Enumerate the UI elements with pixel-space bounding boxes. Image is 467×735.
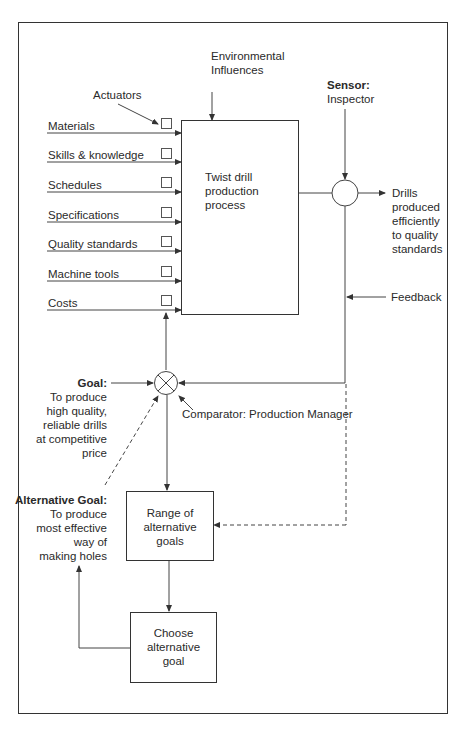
alt-goal-text-2: most effective [36,521,107,536]
output-line-5: standards [392,242,443,257]
alt-goal-text-4: making holes [39,549,107,564]
actuator-box-materials [161,118,172,129]
output-line-1: Drills [392,186,418,201]
actuators-label: Actuators [93,88,142,103]
actuator-box-costs [161,295,172,306]
goal-text-4: at competitive [36,432,107,447]
input-label-quality-standards: Quality standards [48,237,138,252]
output-line-3: efficiently [392,214,440,229]
alt-goal-text-1: To produce [50,507,107,522]
goal-title: Goal: [78,376,107,391]
range-label-2: alternative [127,520,213,535]
connector-lines [0,0,467,735]
input-label-materials: Materials [48,119,95,134]
sensor-title: Sensor: [327,78,370,93]
alt-goal-text-3: way of [74,535,107,550]
output-line-4: to quality [392,228,438,243]
process-label-2: production [205,184,259,199]
input-label-schedules: Schedules [48,178,102,193]
input-label-specifications: Specifications [48,208,119,223]
goal-text-5: price [82,446,107,461]
output-line-2: produced [392,200,440,215]
range-label-1: Range of [127,506,213,521]
actuator-box-skills [161,148,172,159]
feedback-label: Feedback [391,290,442,305]
choose-label-3: goal [131,654,216,669]
comparator-label: Comparator: Production Manager [182,407,353,422]
process-box: Twist drill production process [181,120,299,315]
goal-text-2: high quality, [46,404,107,419]
actuator-box-specifications [161,207,172,218]
actuator-box-schedules [161,177,172,188]
environmental-label-line1: Environmental [211,49,285,64]
goal-text-1: To produce [50,390,107,405]
alt-goal-title: Alternative Goal: [15,493,107,508]
process-label-1: Twist drill [205,170,252,185]
range-of-goals-box: Range of alternative goals [126,491,214,561]
actuator-box-quality [161,236,172,247]
process-label-3: process [205,198,245,213]
input-label-skills: Skills & knowledge [48,148,144,163]
goal-text-3: reliable drills [43,418,107,433]
sensor-name: Inspector [327,92,374,107]
choose-goal-box: Choose alternative goal [130,612,217,683]
actuator-box-machine-tools [161,266,172,277]
environmental-label-line2: Influences [211,63,263,78]
input-label-costs: Costs [48,296,77,311]
range-label-3: goals [127,534,213,549]
input-label-machine-tools: Machine tools [48,267,119,282]
choose-label-1: Choose [131,626,216,641]
choose-label-2: alternative [131,640,216,655]
